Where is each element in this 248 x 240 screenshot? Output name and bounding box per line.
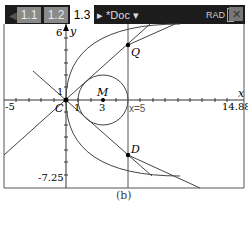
- line-equation-label: x=5: [129, 103, 145, 114]
- tangent-d: [128, 155, 200, 188]
- x-max-label: 14.88: [222, 101, 248, 112]
- figure-caption: (b): [116, 189, 132, 202]
- y-axis-label: y: [70, 25, 76, 38]
- point-d[interactable]: [126, 153, 130, 157]
- point-q[interactable]: [126, 43, 130, 47]
- point-m-label: M: [97, 86, 108, 99]
- m-value-label: 3: [99, 102, 105, 113]
- point-d-label: D: [131, 143, 140, 156]
- y-min-label: -7.25: [38, 172, 64, 183]
- x-one-label: 1: [74, 102, 80, 113]
- tangent-q: [128, 24, 175, 45]
- point-q-label: Q: [131, 46, 140, 59]
- point-c-label: C: [55, 102, 63, 115]
- y-max-label: 6: [56, 27, 62, 38]
- x-min-label: -5: [5, 101, 15, 112]
- x-axis-label: x: [238, 87, 244, 100]
- x-axis: [4, 98, 244, 102]
- line-cd: [33, 71, 152, 176]
- y-one-label: 1: [57, 86, 63, 97]
- point-c[interactable]: [64, 98, 69, 103]
